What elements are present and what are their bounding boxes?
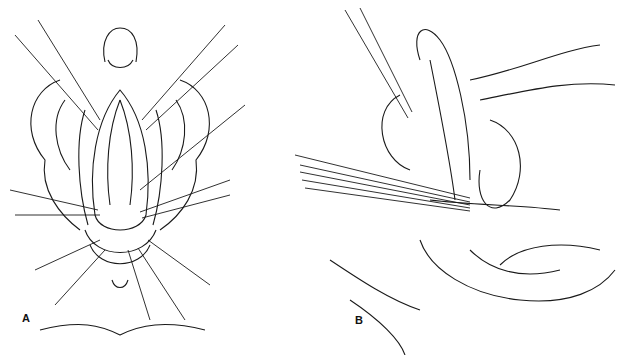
panel-a-illustration (0, 0, 621, 355)
panel-label-a: A (22, 312, 30, 324)
panel-label-b: B (355, 314, 363, 326)
